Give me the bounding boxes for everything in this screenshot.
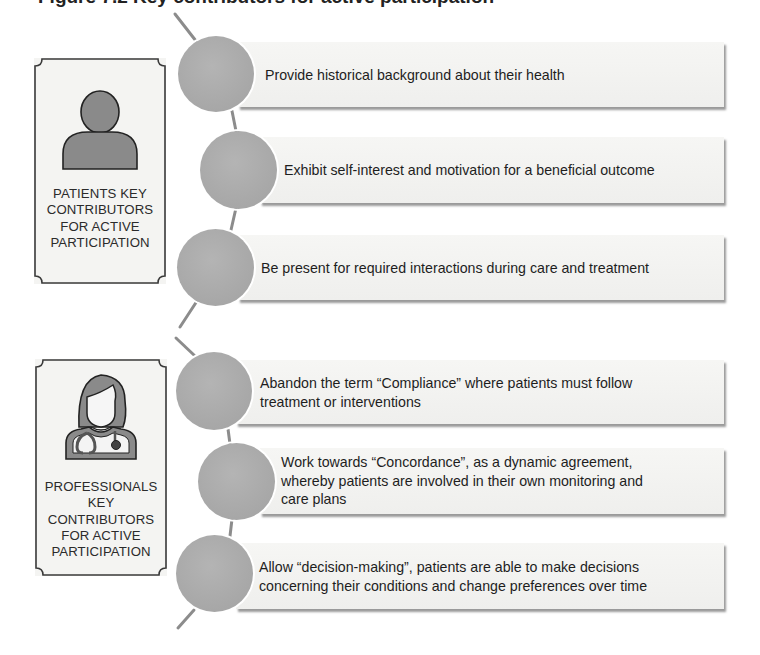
- label-line: PARTICIPATION: [34, 235, 166, 251]
- bullet-circle-icon: [176, 352, 252, 430]
- professional-item-1: Abandon the term “Compliance” where pati…: [236, 360, 724, 424]
- item-text: Exhibit self-interest and motivation for…: [284, 161, 655, 180]
- label-line: CONTRIBUTORS: [34, 202, 166, 218]
- patients-label: PATIENTS KEY CONTRIBUTORS FOR ACTIVE PAR…: [34, 186, 166, 251]
- bullet-circle-icon: [200, 131, 277, 209]
- patient-item-2: Exhibit self-interest and motivation for…: [260, 137, 724, 203]
- item-text: Abandon the term “Compliance” where pati…: [260, 374, 632, 411]
- item-text: Work towards “Concordance”, as a dynamic…: [281, 453, 643, 509]
- patient-item-1: Provide historical background about thei…: [238, 42, 724, 107]
- label-line: CONTRIBUTORS: [35, 512, 167, 528]
- patients-label-box: PATIENTS KEY CONTRIBUTORS FOR ACTIVE PAR…: [34, 58, 166, 284]
- label-line: PATIENTS KEY: [34, 186, 166, 202]
- patient-item-3: Be present for required interactions dur…: [238, 235, 724, 300]
- text-line: treatment or interventions: [260, 392, 632, 411]
- professionals-label: PROFESSIONALS KEY CONTRIBUTORS FOR ACTIV…: [35, 479, 167, 560]
- bullet-circle-icon: [178, 36, 254, 112]
- item-text: Provide historical background about thei…: [265, 65, 565, 84]
- doctor-stethoscope-icon: [35, 371, 167, 463]
- item-text: Be present for required interactions dur…: [261, 258, 649, 277]
- bullet-circle-icon: [177, 229, 254, 306]
- label-line: FOR ACTIVE: [35, 528, 167, 544]
- text-line: Work towards “Concordance”, as a dynamic…: [281, 453, 643, 472]
- text-line: concerning their conditions and change p…: [259, 576, 647, 595]
- text-line: Abandon the term “Compliance” where pati…: [260, 374, 632, 393]
- item-text: Allow “decision-making”, patients are ab…: [259, 558, 647, 595]
- person-icon: [34, 90, 166, 170]
- text-line: care plans: [281, 490, 643, 509]
- label-line: FOR ACTIVE: [34, 219, 166, 235]
- bullet-circle-icon: [198, 443, 275, 520]
- bullet-circle-icon: [176, 535, 253, 612]
- professional-item-3: Allow “decision-making”, patients are ab…: [236, 543, 724, 609]
- label-line: PROFESSIONALS: [35, 479, 167, 495]
- text-line: whereby patients are involved in their o…: [281, 472, 643, 491]
- label-line: KEY: [35, 495, 167, 511]
- professional-item-2: Work towards “Concordance”, as a dynamic…: [260, 448, 724, 514]
- label-line: PARTICIPATION: [35, 544, 167, 560]
- professionals-label-box: PROFESSIONALS KEY CONTRIBUTORS FOR ACTIV…: [35, 359, 167, 576]
- text-line: Allow “decision-making”, patients are ab…: [259, 558, 647, 577]
